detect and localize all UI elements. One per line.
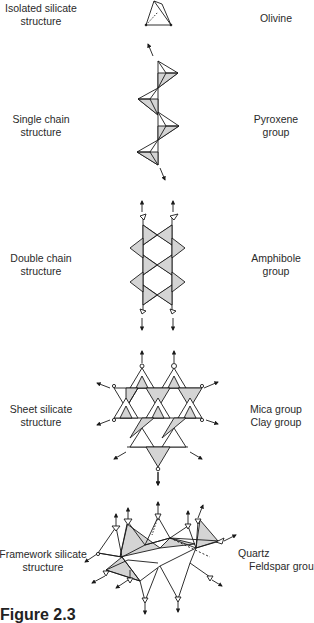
single-chain-icon xyxy=(137,44,179,180)
silicate-diagrams xyxy=(0,0,314,623)
double-chain-icon xyxy=(130,201,185,330)
framework-silicate-icon xyxy=(85,472,236,614)
figure-caption: Figure 2.3 xyxy=(0,606,76,623)
isolated-tetrahedron-icon xyxy=(145,1,172,26)
sheet-silicate-icon xyxy=(97,351,218,485)
